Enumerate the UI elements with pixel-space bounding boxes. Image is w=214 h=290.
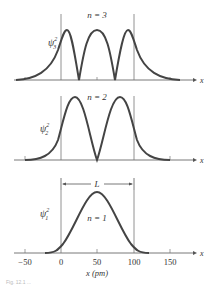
svg-text:0: 0 — [59, 257, 63, 267]
x-axis-symbol-2: x — [199, 156, 204, 165]
wavefunction-figure: n = 3 ψ23 x n = 2 ψ22 x L n = 1 ψ21 x −5… — [0, 0, 214, 290]
n3-label: n = 3 — [87, 10, 107, 20]
svg-text:100: 100 — [128, 257, 141, 267]
panel-n3 — [14, 14, 197, 82]
x-axis-symbol-3: x — [199, 76, 204, 85]
x-tick-labels: −50 0 50 100 150 — [18, 257, 176, 267]
x-axis-label: x (pm) — [85, 268, 108, 278]
figure-caption: Fig. 12.1 ... — [6, 279, 31, 285]
psi1-label: ψ21 — [40, 207, 49, 221]
psi2-label: ψ22 — [40, 122, 49, 136]
svg-text:50: 50 — [93, 257, 102, 267]
n2-label: n = 2 — [87, 92, 107, 102]
n1-label: n = 1 — [87, 213, 107, 223]
L-label: L — [93, 179, 99, 189]
x-axis-symbol-1: x — [199, 249, 204, 258]
svg-text:150: 150 — [164, 257, 177, 267]
svg-text:−50: −50 — [18, 257, 31, 267]
psi3-label: ψ23 — [48, 36, 57, 50]
